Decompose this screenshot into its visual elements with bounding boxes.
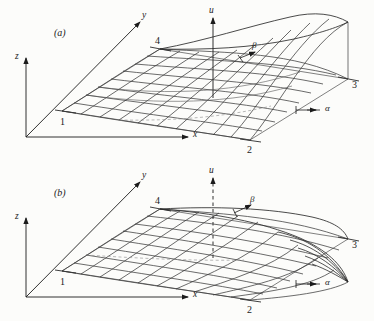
panel-a-corner-4: 4: [155, 36, 160, 46]
panel-b-alpha-label: α: [325, 278, 330, 287]
panel-a-y-axis-label: y: [142, 11, 146, 21]
panel-b-cusp-fan: [278, 232, 348, 282]
panel-a-x-axis-label: x: [193, 130, 197, 140]
panel-b-alpha-pointer: [296, 280, 320, 288]
panel-b-mesh-beta: [62, 209, 348, 300]
panel-b-graphic: [0, 160, 374, 321]
figure-container: (a) z y x u 1 2 3 4 α β: [0, 0, 374, 321]
panel-a-z-axis-label: z: [15, 52, 19, 62]
y-axis: [26, 22, 140, 137]
panel-b-y-axis-label: y: [142, 171, 146, 181]
panel-a-corner-2: 2: [247, 145, 252, 155]
panel-a-alpha-label: α: [325, 104, 330, 113]
panel-b-x-axis-label: x: [193, 290, 197, 300]
panel-a-corner-3: 3: [352, 80, 357, 90]
panel-b-beta-label: β: [250, 195, 254, 204]
y-axis: [26, 182, 140, 297]
panel-a-u-axis-label: u: [209, 6, 214, 16]
panel-a-corner-1: 1: [60, 117, 65, 127]
panel-b-z-axis-label: z: [15, 212, 19, 222]
panel-b-beta-pointer: [233, 205, 251, 217]
panel-a-beta-label: β: [252, 41, 256, 50]
panel-b: (b) z y x u 1 2 3 4 α β: [0, 160, 374, 321]
base-edge-3-4: [160, 209, 348, 239]
base-edge-3-4: [160, 49, 348, 79]
panel-b-axes: [26, 182, 188, 297]
panel-b-corner-2: 2: [247, 305, 252, 315]
panel-a-tag: (a): [54, 28, 66, 38]
panel-b-u-axis-label: u: [209, 166, 214, 176]
panel-b-corner-1: 1: [60, 277, 65, 287]
panel-b-tag: (b): [54, 188, 66, 198]
panel-b-corner-4: 4: [155, 196, 160, 206]
base-edge-2-3: [250, 79, 348, 140]
panel-b-corner-3: 3: [352, 240, 357, 250]
panel-a-graphic: [0, 0, 374, 161]
panel-a: (a) z y x u 1 2 3 4 α β: [0, 0, 374, 161]
panel-a-alpha-pointer: [296, 106, 320, 114]
